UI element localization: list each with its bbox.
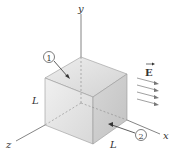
cube-diagram: y x z L L 1 2 E — [0, 0, 179, 153]
z-axis — [16, 125, 45, 141]
side-label-bottom: L — [109, 139, 117, 150]
svg-text:1: 1 — [47, 54, 52, 63]
y-axis-label: y — [77, 3, 84, 14]
svg-text:2: 2 — [139, 132, 144, 141]
electric-field: E — [137, 63, 159, 107]
field-label: E — [145, 67, 153, 78]
z-axis-label: z — [5, 139, 12, 150]
x-axis-label: x — [163, 130, 169, 141]
side-label-left: L — [31, 95, 39, 106]
